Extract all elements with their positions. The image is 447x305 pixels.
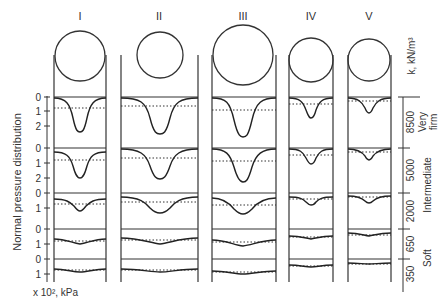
tire-circle-1 [55, 31, 105, 81]
svg-text:0: 0 [35, 188, 41, 199]
k-value-5000: 5000 [405, 158, 416, 181]
svg-text:0: 0 [35, 224, 41, 235]
svg-text:1: 1 [35, 203, 41, 214]
k-value-2000: 2000 [405, 199, 416, 222]
row-baselines [54, 97, 391, 259]
tire-circle-2 [137, 32, 183, 78]
pressure-curves [54, 98, 391, 274]
soil-labels: Very firm Intermediate Soft [417, 112, 439, 267]
column-label-1: I [78, 10, 81, 22]
svg-text:1: 1 [35, 239, 41, 250]
mean-pressure-lines [54, 101, 391, 272]
y-axis-label: Normal pressure distribution [11, 113, 23, 251]
tire-circle-4 [289, 38, 333, 82]
svg-text:2: 2 [35, 173, 41, 184]
tire-circles [55, 25, 390, 85]
svg-text:1: 1 [35, 269, 41, 280]
left-axis [44, 96, 50, 282]
k-axis-label: k, kN/m³ [406, 37, 417, 75]
svg-text:0: 0 [35, 143, 41, 154]
column-label-5: V [365, 10, 373, 22]
column-label-2: II [156, 10, 162, 22]
panel-edges [54, 55, 391, 282]
y-axis-unit: x 10², kPa [33, 287, 78, 298]
k-value-650: 650 [405, 235, 416, 252]
soil-firm: firm [428, 114, 439, 131]
tire-circle-3 [213, 25, 273, 85]
pressure-distribution-diagram: I II III IV V [0, 0, 447, 305]
soil-intermediate: Intermediate [422, 157, 433, 213]
svg-text:0: 0 [35, 92, 41, 103]
k-value-8500: 8500 [405, 110, 416, 133]
k-values: 8500 5000 2000 650 350 [405, 110, 416, 282]
soil-soft: Soft [422, 249, 433, 267]
k-value-350: 350 [405, 265, 416, 282]
svg-text:1: 1 [35, 106, 41, 117]
svg-text:0: 0 [35, 254, 41, 265]
tire-circle-5 [348, 39, 390, 81]
svg-text:1: 1 [35, 158, 41, 169]
column-label-4: IV [306, 10, 317, 22]
column-label-3: III [238, 10, 247, 22]
left-axis-ticks: 0 1 2 0 1 2 0 1 0 1 0 1 [35, 92, 41, 280]
svg-text:2: 2 [35, 121, 41, 132]
soil-very: Very [417, 112, 428, 132]
